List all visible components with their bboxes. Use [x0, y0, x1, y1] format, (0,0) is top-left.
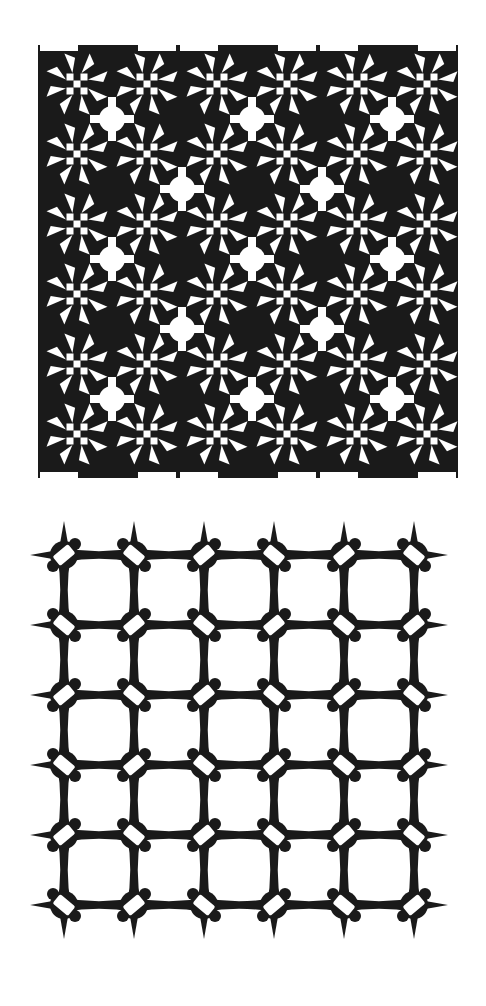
geometric-rosette-pattern: [0, 0, 486, 500]
star-lattice-pattern: [0, 500, 486, 1006]
